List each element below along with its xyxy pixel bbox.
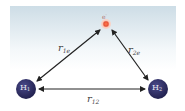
- nucleus-h2-label: H2: [152, 84, 162, 92]
- nucleus-h1-label: H1: [20, 84, 30, 92]
- distance-label-r1e: r1e: [58, 43, 70, 54]
- electron-label: e-: [102, 13, 107, 20]
- distance-label-r2e: r2e: [128, 45, 140, 56]
- distance-label-r12: r12: [87, 94, 99, 105]
- electron-icon: [102, 20, 109, 27]
- arrow-r1e: [37, 30, 100, 81]
